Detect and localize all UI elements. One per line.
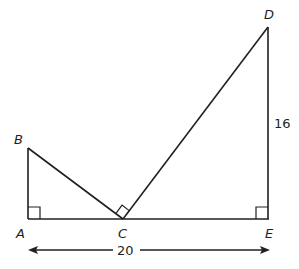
right-angle-marker-e xyxy=(256,207,268,219)
point-label-a: A xyxy=(15,226,25,241)
measure-label-de: 16 xyxy=(274,116,291,131)
segment-bc xyxy=(28,148,123,219)
segment-cd xyxy=(123,27,268,219)
geometry-diagram: B A C E D 16 20 xyxy=(0,0,299,269)
point-label-b: B xyxy=(14,132,23,147)
point-label-c: C xyxy=(118,226,128,241)
right-angle-marker-a xyxy=(28,207,40,219)
point-label-d: D xyxy=(264,7,274,22)
measure-label-ae: 20 xyxy=(117,243,134,258)
point-label-e: E xyxy=(265,226,274,241)
